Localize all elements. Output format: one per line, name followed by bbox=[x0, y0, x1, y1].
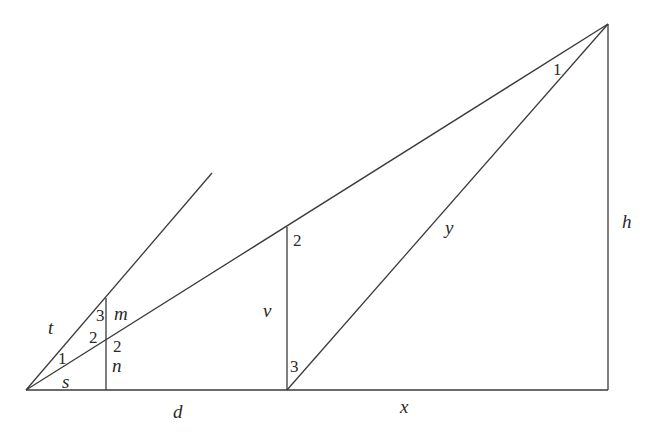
line-segments bbox=[26, 24, 608, 390]
label-d: d bbox=[173, 401, 183, 422]
labels: tmnsvdxyh1232231 bbox=[48, 60, 632, 422]
geometry-figure: tmnsvdxyh1232231 bbox=[0, 0, 650, 445]
label-x: x bbox=[399, 396, 409, 417]
label-v: v bbox=[263, 300, 272, 321]
angle-2-left-upper-label: 2 bbox=[89, 328, 98, 347]
angle-1-left-label: 1 bbox=[58, 349, 67, 368]
angle-1-apex-label: 1 bbox=[553, 60, 562, 79]
diagram-canvas: tmnsvdxyh1232231 bbox=[0, 0, 650, 445]
angle-3-left-label: 3 bbox=[96, 306, 105, 325]
label-t: t bbox=[48, 317, 54, 338]
angle-2-mid-label: 2 bbox=[293, 231, 302, 250]
hypotenuse-main-line bbox=[26, 24, 608, 390]
angle-3-mid-label: 3 bbox=[290, 357, 299, 376]
label-s: s bbox=[62, 371, 69, 392]
label-m: m bbox=[114, 303, 128, 324]
label-h: h bbox=[622, 211, 632, 232]
label-n: n bbox=[112, 355, 122, 376]
angle-2-left-lower-label: 2 bbox=[113, 337, 122, 356]
label-y: y bbox=[443, 217, 454, 238]
